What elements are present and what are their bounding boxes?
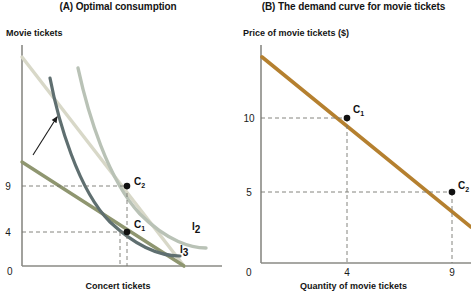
panel-a-label-i2: I2 xyxy=(192,221,201,235)
panel-a-ytick-9: 9 xyxy=(5,181,11,192)
indifference-curve-2 xyxy=(78,68,206,248)
panel-a-shift-arrow xyxy=(33,117,57,155)
panel-a-label-c2: C2 xyxy=(134,176,145,189)
panel-a-origin-label: 0 xyxy=(7,266,13,277)
panel-a-ytick-4: 4 xyxy=(5,227,11,238)
panel-a-point-c1 xyxy=(124,229,131,236)
panel-b-xtick-9: 9 xyxy=(449,267,455,278)
panel-b-label-c2: C2 xyxy=(458,180,469,193)
panel-b-plot: 0 10 5 4 9 C1 C2 xyxy=(236,0,471,301)
panel-a-optimal-consumption: (A) Optimal consumption Movie tickets Co… xyxy=(0,0,236,301)
panel-a-point-c2 xyxy=(124,183,131,190)
panel-b-origin-label: 0 xyxy=(246,267,252,278)
panel-a-plot: 0 9 4 C2 C1 I2 xyxy=(0,0,236,301)
figure-container: (A) Optimal consumption Movie tickets Co… xyxy=(0,0,471,301)
panel-b-xtick-4: 4 xyxy=(344,267,350,278)
budget-line-initial xyxy=(22,57,184,266)
demand-curve xyxy=(262,57,471,227)
panel-b-point-c2 xyxy=(449,189,456,196)
panel-b-label-c1: C1 xyxy=(353,104,364,117)
panel-b-ytick-10: 10 xyxy=(243,113,255,124)
panel-b-point-c1 xyxy=(344,115,351,122)
panel-a-label-c1: C1 xyxy=(134,219,145,232)
panel-b-ytick-5: 5 xyxy=(246,187,252,198)
panel-b-demand-curve: (B) The demand curve for movie tickets P… xyxy=(236,0,471,301)
